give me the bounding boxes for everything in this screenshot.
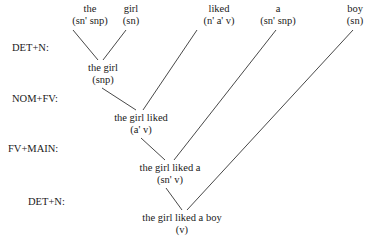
node-phrase: the girl liked: [114, 112, 168, 124]
leaf-word: the: [72, 3, 107, 15]
rule-label-nom-fv: NOM+FV:: [12, 93, 58, 105]
tree-edge: [141, 138, 165, 160]
leaf-boy: boy (sn): [347, 3, 363, 27]
tree-edges: [0, 0, 372, 245]
tree-edge: [102, 88, 136, 110]
rule-label-fv-main: FV+MAIN:: [8, 143, 58, 155]
node-category: (snp): [88, 74, 118, 86]
node-the-girl: the girl (snp): [88, 62, 118, 86]
node-category: (v): [142, 224, 221, 236]
node-category: (sn' v): [140, 174, 201, 186]
leaf-category: (sn' snp): [72, 15, 107, 27]
leaf-category: (n' a' v): [203, 15, 234, 27]
node-phrase: the girl: [88, 62, 118, 74]
rule-label-det-n-2: DET+N:: [28, 196, 65, 208]
leaf-category: (sn): [347, 15, 363, 27]
leaf-word: liked: [203, 3, 234, 15]
leaf-the: the (sn' snp): [72, 3, 107, 27]
derivation-tree-diagram: the (sn' snp) girl (sn) liked (n' a' v) …: [0, 0, 372, 245]
tree-edge: [73, 30, 98, 60]
tree-edge: [174, 30, 276, 160]
tree-edge: [166, 188, 182, 210]
leaf-a: a (sn' snp): [260, 3, 295, 27]
rule-label-det-n: DET+N:: [12, 42, 49, 54]
node-phrase: the girl liked a: [140, 162, 201, 174]
leaf-category: (sn' snp): [260, 15, 295, 27]
leaf-category: (sn): [123, 15, 139, 27]
leaf-word: boy: [347, 3, 363, 15]
node-category: (a' v): [114, 124, 168, 136]
tree-edge: [187, 30, 353, 210]
node-the-girl-liked: the girl liked (a' v): [114, 112, 168, 136]
leaf-girl: girl (sn): [123, 3, 139, 27]
tree-edge: [143, 30, 197, 110]
node-phrase: the girl liked a boy: [142, 212, 221, 224]
leaf-liked: liked (n' a' v): [203, 3, 234, 27]
leaf-word: girl: [123, 3, 139, 15]
node-the-girl-liked-a: the girl liked a (sn' v): [140, 162, 201, 186]
tree-edge: [103, 30, 126, 60]
leaf-word: a: [260, 3, 295, 15]
node-the-girl-liked-a-boy: the girl liked a boy (v): [142, 212, 221, 236]
